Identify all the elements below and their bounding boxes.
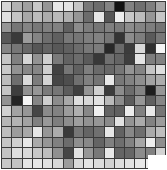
heatmap-cell — [43, 96, 52, 105]
heatmap-cell — [115, 54, 124, 63]
heatmap-cell — [64, 106, 73, 115]
heatmap-cell — [12, 159, 21, 168]
heatmap-cell — [146, 117, 155, 126]
heatmap-cell — [43, 33, 52, 42]
heatmap-cell — [64, 65, 73, 74]
heatmap-cell — [12, 86, 21, 95]
heatmap-cell — [33, 12, 42, 21]
heatmap-cell — [43, 86, 52, 95]
heatmap-cell — [33, 44, 42, 53]
heatmap-cell — [2, 54, 11, 63]
heatmap-cell — [84, 65, 93, 74]
heatmap-cell — [33, 159, 42, 168]
heatmap-cell — [156, 75, 165, 84]
heatmap-cell — [64, 86, 73, 95]
heatmap-cell — [64, 23, 73, 32]
heatmap-cell — [156, 96, 165, 105]
heatmap-cell — [23, 23, 32, 32]
heatmap-cell — [105, 54, 114, 63]
heatmap-cell — [12, 2, 21, 11]
heatmap-cell — [33, 117, 42, 126]
heatmap-cell — [33, 106, 42, 115]
heatmap-cell — [94, 23, 103, 32]
heatmap-cell — [2, 159, 11, 168]
heatmap-cell — [84, 75, 93, 84]
heatmap-cell — [115, 117, 124, 126]
heatmap-cell — [135, 33, 144, 42]
heatmap-cell — [146, 12, 155, 21]
heatmap-cell — [105, 138, 114, 147]
heatmap-cell — [156, 44, 165, 53]
heatmap-cell — [146, 96, 155, 105]
heatmap-cell — [146, 54, 155, 63]
heatmap-cell — [135, 117, 144, 126]
heatmap-cell — [12, 127, 21, 136]
heatmap-cell — [43, 159, 52, 168]
heatmap-cell — [105, 106, 114, 115]
heatmap-cell — [43, 75, 52, 84]
heatmap-cell — [135, 65, 144, 74]
heatmap-cell — [84, 23, 93, 32]
heatmap-cell — [135, 23, 144, 32]
heatmap-cell — [84, 96, 93, 105]
heatmap-cell — [12, 75, 21, 84]
heatmap-cell — [105, 159, 114, 168]
heatmap-plot-area — [1, 1, 166, 169]
heatmap-cell — [23, 127, 32, 136]
heatmap-cell — [156, 117, 165, 126]
heatmap-cell — [94, 54, 103, 63]
heatmap-cell — [53, 2, 62, 11]
heatmap-cell — [12, 54, 21, 63]
heatmap-cell — [125, 33, 134, 42]
heatmap-cell — [12, 117, 21, 126]
heatmap-cell — [115, 148, 124, 157]
heatmap-cell — [125, 138, 134, 147]
heatmap-cell — [125, 148, 134, 157]
heatmap-cell — [33, 65, 42, 74]
heatmap-cell — [43, 148, 52, 157]
heatmap-cell — [43, 2, 52, 11]
heatmap-cell — [115, 96, 124, 105]
heatmap-cell — [12, 138, 21, 147]
heatmap-cell — [64, 138, 73, 147]
heatmap-cell — [115, 33, 124, 42]
heatmap-cell — [146, 127, 155, 136]
heatmap-cell — [84, 148, 93, 157]
heatmap-cell — [146, 44, 155, 53]
heatmap-cell — [105, 12, 114, 21]
heatmap-cell — [105, 96, 114, 105]
heatmap-cell — [23, 65, 32, 74]
heatmap-cell — [74, 44, 83, 53]
heatmap-cell — [135, 138, 144, 147]
heatmap-cell — [33, 75, 42, 84]
heatmap-cell — [53, 127, 62, 136]
heatmap-cell — [135, 96, 144, 105]
heatmap-cell — [74, 127, 83, 136]
heatmap-cell — [115, 2, 124, 11]
heatmap-cell — [74, 2, 83, 11]
heatmap-cell — [146, 2, 155, 11]
heatmap-cell — [146, 86, 155, 95]
heatmap-cell — [94, 106, 103, 115]
heatmap-cell — [115, 106, 124, 115]
heatmap-cell — [74, 96, 83, 105]
heatmap-cell — [115, 138, 124, 147]
heatmap-cell — [115, 75, 124, 84]
heatmap-cell — [53, 75, 62, 84]
heatmap-cell — [33, 127, 42, 136]
heatmap-cell — [2, 127, 11, 136]
heatmap-cell — [156, 23, 165, 32]
heatmap-cell — [53, 33, 62, 42]
heatmap-cell — [33, 23, 42, 32]
heatmap-cell — [135, 54, 144, 63]
heatmap-cell — [115, 65, 124, 74]
heatmap-cell — [64, 159, 73, 168]
heatmap-cell — [53, 117, 62, 126]
heatmap-cell — [156, 54, 165, 63]
heatmap-cell — [125, 106, 134, 115]
heatmap-cell — [64, 117, 73, 126]
heatmap-cell — [105, 2, 114, 11]
heatmap-cell — [84, 33, 93, 42]
heatmap-cell — [125, 44, 134, 53]
heatmap-cell — [135, 2, 144, 11]
